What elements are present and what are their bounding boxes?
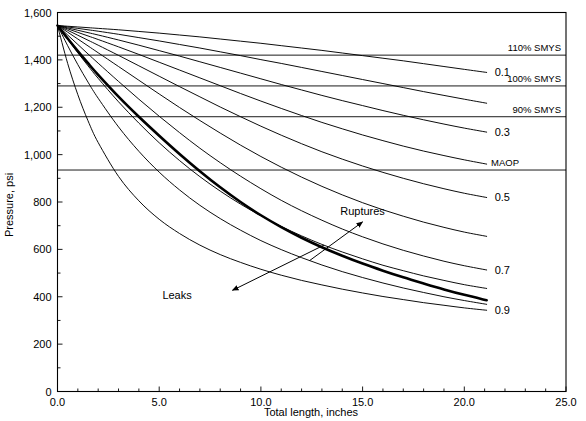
x-tick-label-5: 25.0 (555, 396, 576, 408)
y-tick-label-1: 200 (33, 338, 51, 350)
x-axis-title: Total length, inches (264, 406, 359, 418)
curve-label-0-3: 0.3 (495, 126, 510, 138)
reference-label-110-smys: 110% SMYS (508, 42, 561, 53)
curve-label-0-5: 0.5 (495, 191, 510, 203)
y-tick-label-4: 800 (33, 196, 51, 208)
chart-page: 0.05.010.015.020.025.0 02004006008001,00… (0, 0, 586, 421)
curve-label-0-1: 0.1 (495, 66, 510, 78)
reference-label-90-smys: 90% SMYS (512, 104, 561, 115)
reference-label-maop: MAOP (491, 157, 519, 168)
y-tick-label-2: 400 (33, 291, 51, 303)
x-tick-label-1: 5.0 (152, 396, 167, 408)
x-tick-label-0: 0.0 (50, 396, 65, 408)
y-tick-label-8: 1,600 (24, 7, 52, 19)
pressure-vs-length-chart: 0.05.010.015.020.025.0 02004006008001,00… (0, 0, 586, 421)
annotation-label-ruptures: Ruptures (340, 205, 385, 217)
y-tick-label-6: 1,200 (24, 101, 52, 113)
x-tick-label-4: 20.0 (454, 396, 475, 408)
curve-label-0-7: 0.7 (495, 264, 510, 276)
reference-label-100-smys: 100% SMYS (507, 73, 561, 84)
curve-label-0-9: 0.9 (495, 304, 510, 316)
y-tick-label-5: 1,000 (24, 149, 52, 161)
annotation-label-leaks: Leaks (162, 289, 192, 301)
y-axis-title: Pressure, psi (3, 173, 15, 237)
y-tick-label-0: 0 (45, 386, 51, 398)
y-tick-label-3: 600 (33, 243, 51, 255)
y-tick-label-7: 1,400 (24, 54, 52, 66)
